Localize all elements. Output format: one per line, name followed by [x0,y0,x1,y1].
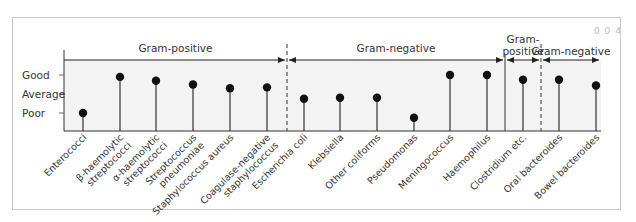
plot-area [64,60,601,131]
y-tick-label: Poor [22,107,46,119]
group-label: Gram- [507,33,540,45]
data-point [555,76,563,84]
svg-text:Bowel bacteroides: Bowel bacteroides [532,132,601,201]
data-point [592,81,600,89]
data-point [483,71,491,79]
data-point [300,95,308,103]
y-tick-label: Average [22,88,65,100]
data-point [336,94,344,102]
data-point [373,94,381,102]
data-point [263,83,271,91]
x-tick-label: Bowel bacteroides [532,132,601,201]
lollipop-chart: GoodAveragePoor Gram-positiveGram-negati… [0,0,636,222]
svg-text:Coagulase-negative: Coagulase-negative [198,132,273,207]
y-tick-label: Good [22,69,50,81]
data-point [519,76,527,84]
data-point [446,71,454,79]
data-point [410,114,418,122]
data-point [189,80,197,88]
data-point [116,73,124,81]
group-label: Gram-negative [357,42,436,54]
data-point [152,77,160,85]
group-label: Gram-positive [138,42,212,54]
group-label: Gram-negative [532,45,611,57]
data-point [226,84,234,92]
data-point [79,109,87,117]
